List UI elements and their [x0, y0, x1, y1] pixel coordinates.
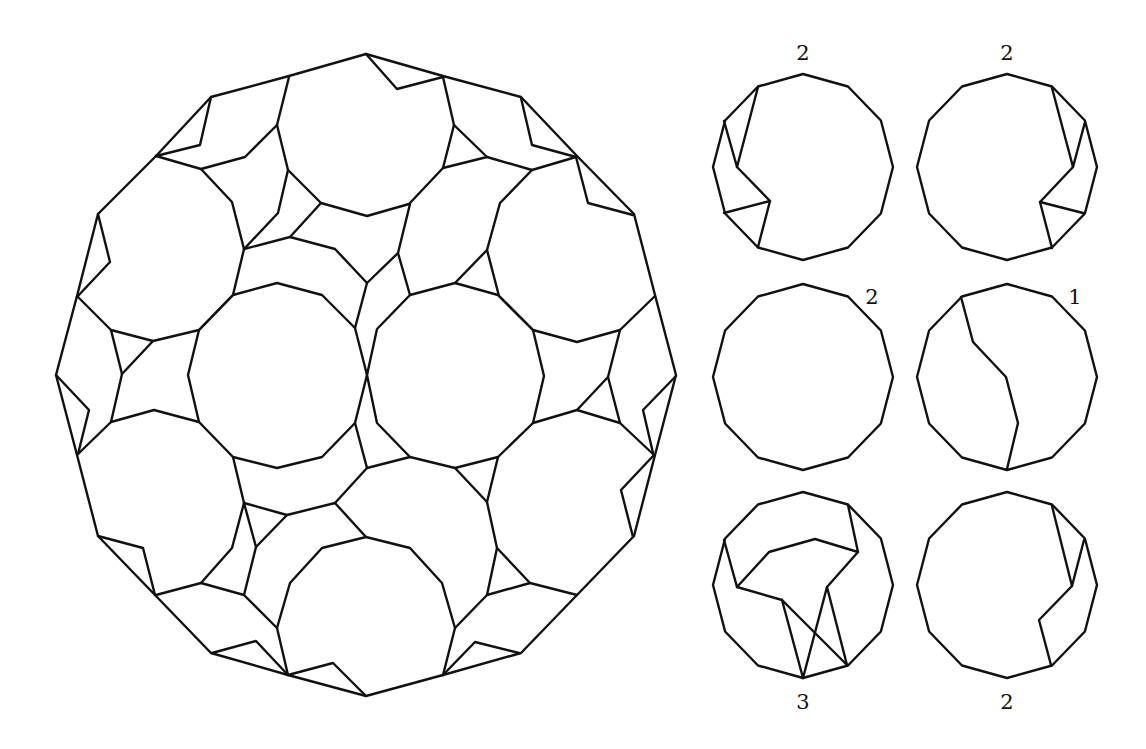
notch-bottom	[288, 663, 366, 696]
filler-left-a	[111, 330, 122, 422]
piece-middle-right: 1	[917, 284, 1097, 470]
filler-top-center-b	[355, 283, 367, 328]
filler-left-b	[122, 341, 153, 374]
notch-bottom-right	[443, 642, 519, 675]
dodecagon-top	[277, 77, 454, 216]
piece-middle-left: 2	[713, 284, 893, 470]
large-dodecagon-dissection	[56, 54, 676, 696]
filler-bottom-left-b	[335, 423, 367, 503]
dodecagon-bottom	[277, 537, 455, 675]
cut-line	[724, 201, 770, 213]
filler-bottom-center	[367, 457, 410, 468]
filler-top-center-c	[398, 253, 410, 295]
piece-bottom-right: 2	[917, 492, 1097, 714]
dodecagon-right-lower	[533, 410, 654, 455]
dodecagon-top-left	[78, 156, 244, 341]
piece-count-label: 1	[1068, 285, 1081, 309]
filler-top-left-b	[244, 170, 288, 249]
cut-line	[724, 87, 758, 167]
filler-bottom-left-a	[244, 503, 366, 537]
small-dodecagon-pieces: 222132	[713, 41, 1097, 714]
filler-top-right-b	[443, 157, 487, 168]
piece-bottom-left: 3	[713, 492, 893, 714]
dodecagon-left-lower-b	[156, 457, 244, 595]
filler-bottom-right-c	[487, 583, 530, 595]
dodecagon-center-left	[188, 283, 367, 468]
dodecagon-outline	[917, 492, 1097, 678]
notch-bottom-left	[212, 641, 288, 675]
filler-top-right-c	[455, 250, 487, 283]
cut-line	[737, 167, 770, 247]
filler-bottom-left-e	[244, 595, 277, 628]
cut-line	[1052, 88, 1085, 167]
filler-bottom-right-a	[455, 468, 487, 502]
dodecagon-outline	[917, 74, 1097, 260]
filler-bottom-right-b	[455, 548, 497, 628]
dodecagon-outline	[713, 284, 893, 470]
dodecagon-outline	[713, 74, 893, 260]
dodecagon-left-lower	[78, 410, 199, 454]
diagram-canvas: 222132	[0, 0, 1146, 749]
piece-count-label: 3	[796, 690, 809, 714]
cut-line	[1040, 202, 1083, 213]
filler-right-b	[577, 377, 608, 410]
piece-count-label: 2	[1000, 41, 1013, 65]
filler-bottom-left-d	[201, 547, 256, 595]
notch-left-upper	[77, 214, 110, 297]
filler-right-a	[608, 330, 620, 423]
piece-top-right: 2	[917, 41, 1097, 260]
cut-line	[1040, 167, 1073, 248]
piece-count-label: 2	[796, 41, 809, 65]
piece-count-label: 2	[865, 285, 878, 309]
filler-top-left-a	[201, 125, 277, 169]
cut-line	[1052, 506, 1084, 586]
piece-top-left: 2	[713, 41, 893, 260]
dodecagon-right-lower-b	[487, 457, 577, 595]
notch-right-upper	[576, 157, 633, 215]
dodecagon-center-right	[367, 283, 544, 468]
piece-count-label: 2	[1000, 690, 1013, 714]
dodecagon-top-right	[487, 157, 655, 342]
cut-line	[961, 297, 1018, 469]
cut-line	[1039, 586, 1072, 665]
